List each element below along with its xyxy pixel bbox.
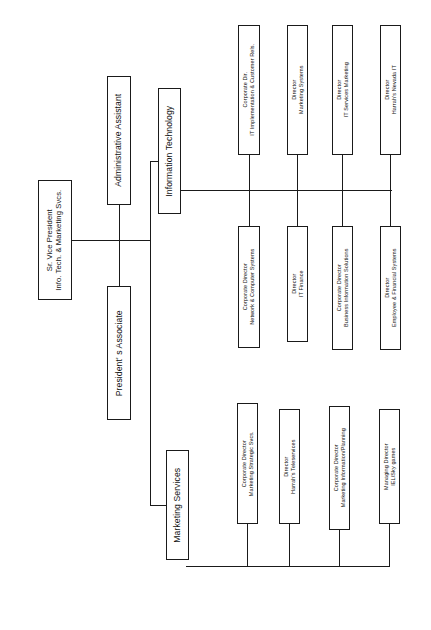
- connector-marketing-strategic-svcs: [247, 524, 248, 567]
- node-it-finance-label: Director IT Finance: [291, 271, 304, 298]
- node-harrahs-nevada-it[interactable]: Director Harrah's Nevada IT: [380, 25, 401, 155]
- connector-it-services-marketing: [342, 155, 343, 191]
- node-it-implementation-label: Corporate Dir. IT Implementation & Custo…: [242, 44, 255, 136]
- node-network-computer-systems[interactable]: Corporate Director Network & Computer Sy…: [238, 226, 260, 348]
- node-harrahs-teleservices[interactable]: Director Harrah's Teleservices: [279, 409, 300, 524]
- connector-business-information-solutions: [342, 190, 343, 226]
- connector-spine-upper: [150, 161, 151, 241]
- node-presidents-associate[interactable]: President' s Associate: [107, 286, 131, 420]
- org-chart-canvas: Sr. Vice President Info. Tech. & Marketi…: [0, 0, 431, 630]
- connector-to-information-technology: [150, 161, 158, 162]
- node-marketing-services-label: Marketing Services: [172, 468, 182, 543]
- connector-to-marketing-services: [150, 505, 166, 506]
- node-employee-financial-systems-label: Director Employee & Financial Systems: [384, 249, 397, 328]
- node-employee-financial-systems[interactable]: Director Employee & Financial Systems: [380, 226, 401, 350]
- node-marketing-systems[interactable]: Director Marketing Systems: [287, 25, 308, 155]
- node-business-information-solutions[interactable]: Corporate Director Business Information …: [332, 226, 353, 350]
- connector-marketing-systems: [297, 155, 298, 191]
- connector-it-implementation: [249, 155, 250, 191]
- node-it-services-marketing-label: Director IT Services Marketing: [336, 62, 349, 117]
- node-it-services-marketing[interactable]: Director IT Services Marketing: [332, 25, 353, 155]
- node-presidents-associate-label: President' s Associate: [114, 310, 124, 396]
- node-information-technology[interactable]: Information Technology: [158, 88, 181, 214]
- connector-admin-assistant: [119, 205, 120, 241]
- connector-it-finance: [297, 190, 298, 226]
- node-svp[interactable]: Sr. Vice President Info. Tech. & Marketi…: [38, 180, 72, 300]
- node-it-implementation[interactable]: Corporate Dir. IT Implementation & Custo…: [238, 25, 260, 155]
- node-svp-label: Sr. Vice President Info. Tech. & Marketi…: [46, 189, 65, 290]
- node-harrahs-nevada-it-label: Director Harrah's Nevada IT: [384, 65, 397, 114]
- node-iel-sky-games-label: Managing Director IEL/Sky games: [383, 443, 396, 490]
- connector-presidents-associate: [119, 240, 120, 286]
- node-admin-assistant-label: Administrative Assistant: [114, 94, 124, 187]
- connector-svp-trunk: [72, 240, 151, 241]
- node-business-information-solutions-label: Corporate Director Business Information …: [336, 249, 349, 328]
- connector-marketing-information-planning: [339, 530, 340, 567]
- node-iel-sky-games[interactable]: Managing Director IEL/Sky games: [379, 409, 400, 524]
- connector-employee-financial-systems: [390, 190, 391, 226]
- node-harrahs-teleservices-label: Director Harrah's Teleservices: [283, 439, 296, 493]
- node-marketing-information-planning[interactable]: Corporate Director Marketing Information…: [329, 406, 350, 530]
- node-marketing-strategic-svcs-label: Corporate Director Marketing Strategic S…: [241, 431, 254, 496]
- connector-it-bus: [180, 190, 392, 191]
- connector-harrahs-teleservices: [289, 524, 290, 567]
- node-network-computer-systems-label: Corporate Director Network & Computer Sy…: [242, 249, 255, 325]
- node-admin-assistant[interactable]: Administrative Assistant: [107, 76, 131, 205]
- node-marketing-information-planning-label: Corporate Director Marketing Information…: [333, 428, 346, 507]
- node-marketing-strategic-svcs[interactable]: Corporate Director Marketing Strategic S…: [237, 403, 258, 524]
- connector-network-computer-systems: [249, 190, 250, 226]
- node-information-technology-label: Information Technology: [164, 106, 174, 197]
- connector-marketing-bus: [186, 566, 390, 567]
- node-marketing-systems-label: Director Marketing Systems: [291, 66, 304, 114]
- node-marketing-services[interactable]: Marketing Services: [166, 450, 189, 560]
- node-it-finance[interactable]: Director IT Finance: [287, 226, 308, 342]
- connector-spine-lower: [150, 240, 151, 505]
- connector-harrahs-nevada-it: [390, 155, 391, 191]
- connector-iel-sky-games: [389, 524, 390, 567]
